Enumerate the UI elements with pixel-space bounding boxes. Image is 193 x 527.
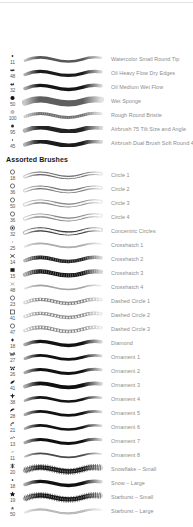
brush-tip-thumbnail[interactable]: 11 (3, 449, 22, 461)
brush-stroke-preview[interactable] (22, 267, 108, 279)
brush-stroke-preview[interactable] (22, 435, 108, 447)
brush-preset-list[interactable]: 11 Watercolor Small Round Tip48 (0, 52, 193, 518)
brush-tip-thumbnail[interactable]: 41 (3, 309, 22, 321)
brush-stroke-preview[interactable] (22, 95, 108, 107)
brush-tip-thumbnail[interactable]: 32 (3, 225, 22, 237)
brush-tip-thumbnail[interactable]: 95 (3, 123, 22, 135)
brush-preset-row[interactable]: 25 Crosshatch 1 (0, 238, 193, 252)
brush-stroke-preview[interactable] (22, 491, 108, 503)
brush-preset-row[interactable]: 36 Circle 2 (0, 182, 193, 196)
brush-stroke-preview[interactable] (22, 67, 108, 79)
brush-preset-row[interactable]: 23 Dashed Circle 1 (0, 294, 193, 308)
brush-preset-row[interactable]: 50 Starburst – Large (0, 504, 193, 518)
brush-tip-thumbnail[interactable]: 18 (3, 169, 22, 181)
brush-tip-thumbnail[interactable]: 32 (3, 81, 22, 93)
brush-preset-row[interactable]: 19 Starburst – Small (0, 490, 193, 504)
brush-tip-thumbnail[interactable]: 47 (3, 323, 22, 335)
brush-preset-row[interactable]: 48 Crosshatch 4 (0, 280, 193, 294)
brush-stroke-preview[interactable] (22, 407, 108, 419)
brush-preset-row[interactable]: 48 Oil Heavy Flow Dry Edges (0, 66, 193, 80)
brush-tip-thumbnail[interactable]: 14 (3, 253, 22, 265)
brush-stroke-preview[interactable] (22, 169, 108, 181)
brush-tip-thumbnail[interactable]: 50 (3, 505, 22, 517)
brush-preset-row[interactable]: 18 Diamond (0, 336, 193, 350)
brush-stroke-preview[interactable] (22, 239, 108, 251)
brush-preset-row[interactable]: 26 Ornament 2 (0, 364, 193, 378)
brush-preset-row[interactable]: 41 Dashed Circle 2 (0, 308, 193, 322)
brush-preset-row[interactable]: 15 Crosshatch 3 (0, 266, 193, 280)
brush-preset-row[interactable]: 11 Ornament 8 (0, 448, 193, 462)
brush-preset-row[interactable]: 36 Circle 4 (0, 210, 193, 224)
brush-preset-row[interactable]: 41 Ornament 3 (0, 378, 193, 392)
brush-tip-thumbnail[interactable]: 25 (3, 239, 22, 251)
brush-stroke-preview[interactable] (22, 281, 108, 293)
brush-tip-thumbnail[interactable]: 50 (3, 95, 22, 107)
brush-preset-row[interactable]: 100 Rough Round Bristle (0, 108, 193, 122)
brushes-panel: 11 Watercolor Small Round Tip48 (0, 0, 193, 527)
brush-preset-row[interactable]: 50 Wet Sponge (0, 94, 193, 108)
brush-stroke-preview[interactable] (22, 183, 108, 195)
brush-stroke-preview[interactable] (22, 477, 108, 489)
brush-preset-row[interactable]: 32 Oil Medium Wet Flow (0, 80, 193, 94)
brush-stroke-preview[interactable] (22, 109, 108, 121)
brush-stroke-preview[interactable] (22, 81, 108, 93)
brush-preset-row[interactable]: 27 Ornament 1 (0, 350, 193, 364)
brush-preset-row[interactable]: 50 Circle 3 (0, 196, 193, 210)
brush-tip-thumbnail[interactable]: 26 (3, 365, 22, 377)
brush-stroke-preview[interactable] (22, 253, 108, 265)
brush-tip-thumbnail[interactable]: 41 (3, 379, 22, 391)
brush-stroke-preview[interactable] (22, 351, 108, 363)
brush-stroke-preview[interactable] (22, 211, 108, 223)
brush-stroke-preview[interactable] (22, 365, 108, 377)
brush-tip-thumbnail[interactable]: 50 (3, 197, 22, 209)
brush-tip-thumbnail[interactable]: 11 (3, 53, 22, 65)
brush-stroke-preview[interactable] (22, 337, 108, 349)
brush-tip-thumbnail[interactable]: 28 (3, 407, 22, 419)
brush-stroke-preview[interactable] (22, 53, 108, 65)
brush-tip-thumbnail[interactable]: 13 (3, 435, 22, 447)
brush-tip-thumbnail[interactable]: 27 (3, 351, 22, 363)
brush-stroke-preview[interactable] (22, 309, 108, 321)
brush-tip-thumbnail[interactable]: 36 (3, 211, 22, 223)
brush-stroke-preview[interactable] (22, 421, 108, 433)
brush-preset-row[interactable]: 95 Airbrush 75 Tilt Size and Angle (0, 122, 193, 136)
brush-stroke-preview[interactable] (22, 323, 108, 335)
brush-preset-row[interactable]: 38 Ornament 4 (0, 392, 193, 406)
brush-size-value: 48 (10, 287, 15, 293)
brush-stroke-preview[interactable] (22, 505, 108, 517)
brush-stroke-preview[interactable] (22, 379, 108, 391)
brush-preset-row[interactable]: 32 Concentric Circles (0, 224, 193, 238)
brush-tip-thumbnail[interactable]: 38 (3, 393, 22, 405)
brush-stroke-preview[interactable] (22, 295, 108, 307)
brush-preset-row[interactable]: 28 Ornament 5 (0, 406, 193, 420)
brush-tip-thumbnail[interactable]: 21 (3, 421, 22, 433)
brush-preset-row[interactable]: 21 Ornament 6 (0, 420, 193, 434)
brush-tip-thumbnail[interactable]: 48 (3, 281, 22, 293)
brush-preset-row[interactable]: 14 Crosshatch 2 (0, 252, 193, 266)
brush-tip-thumbnail[interactable]: 23 (3, 295, 22, 307)
brush-tip-thumbnail[interactable]: 18 (3, 337, 22, 349)
brush-preset-row[interactable]: 18 Circle 1 (0, 168, 193, 182)
brush-stroke-preview[interactable] (22, 449, 108, 461)
brush-preset-row[interactable]: 20 Snowflake – Small (0, 462, 193, 476)
brush-stroke-preview[interactable] (22, 137, 108, 149)
brush-stroke-preview[interactable] (22, 123, 108, 135)
brush-preset-row[interactable]: 18 Snow – Large (0, 476, 193, 490)
brush-preset-row[interactable]: 13 Ornament 7 (0, 434, 193, 448)
brush-stroke-preview[interactable] (22, 225, 108, 237)
brush-name-label: Airbrush 75 Tilt Size and Angle (108, 126, 193, 132)
brush-tip-thumbnail[interactable]: 48 (3, 67, 22, 79)
brush-stroke-preview[interactable] (22, 197, 108, 209)
brush-stroke-preview[interactable] (22, 463, 108, 475)
brush-tip-thumbnail[interactable]: 45 (3, 137, 22, 149)
brush-stroke-preview[interactable] (22, 393, 108, 405)
brush-tip-thumbnail[interactable]: 20 (3, 463, 22, 475)
brush-tip-thumbnail[interactable]: 19 (3, 491, 22, 503)
brush-tip-thumbnail[interactable]: 15 (3, 267, 22, 279)
brush-preset-row[interactable]: 11 Watercolor Small Round Tip (0, 52, 193, 66)
brush-preset-row[interactable]: 47 Dashed Circle 3 (0, 322, 193, 336)
brush-tip-thumbnail[interactable]: 18 (3, 477, 22, 489)
brush-tip-thumbnail[interactable]: 100 (3, 109, 22, 121)
brush-preset-row[interactable]: 45 Airbrush Dual Brush Soft Round 45 (0, 136, 193, 150)
brush-tip-thumbnail[interactable]: 36 (3, 183, 22, 195)
